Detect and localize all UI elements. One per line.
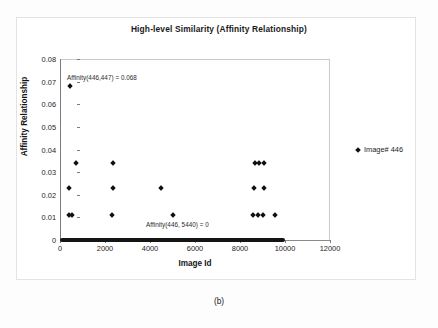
legend: Image# 446 <box>356 145 403 154</box>
y-tick-label: 0 <box>22 236 56 245</box>
y-tick-mark <box>77 217 80 218</box>
x-tick-mark <box>285 240 286 243</box>
zero-affinity-band <box>60 238 285 242</box>
x-tick-label: 0 <box>58 244 62 253</box>
x-tick-mark <box>330 240 331 243</box>
y-tick-label: 0.01 <box>22 213 56 222</box>
y-tick-mark <box>77 82 80 83</box>
y-tick-mark <box>77 172 80 173</box>
annotation-max-affinity: Affinity(446,447) = 0.068 <box>67 74 137 81</box>
figure-root: High-level Similarity (Affinity Relation… <box>0 0 438 328</box>
y-tick-mark <box>77 104 80 105</box>
x-tick-label: 4000 <box>142 244 158 253</box>
chart-title: High-level Similarity (Affinity Relation… <box>0 24 438 34</box>
y-axis-line <box>60 59 61 241</box>
legend-label: Image# 446 <box>364 145 403 154</box>
y-tick-mark <box>77 195 80 196</box>
x-tick-label: 6000 <box>187 244 203 253</box>
x-axis-title: Image Id <box>60 259 330 268</box>
figure-caption: (b) <box>0 296 438 306</box>
plot-area-frame <box>60 59 330 240</box>
y-axis-title: Affinity Relationship <box>20 57 29 177</box>
legend-diamond-icon <box>355 147 361 153</box>
x-tick-label: 10000 <box>275 244 296 253</box>
annotation-zero-affinity: Affinity(446, 5440) = 0 <box>146 221 209 228</box>
x-tick-label: 2000 <box>97 244 113 253</box>
y-tick-mark <box>77 150 80 151</box>
y-tick-mark <box>77 59 80 60</box>
x-tick-label: 12000 <box>320 244 341 253</box>
y-tick-mark <box>77 127 80 128</box>
x-tick-label: 8000 <box>232 244 248 253</box>
y-tick-label: 0.02 <box>22 190 56 199</box>
